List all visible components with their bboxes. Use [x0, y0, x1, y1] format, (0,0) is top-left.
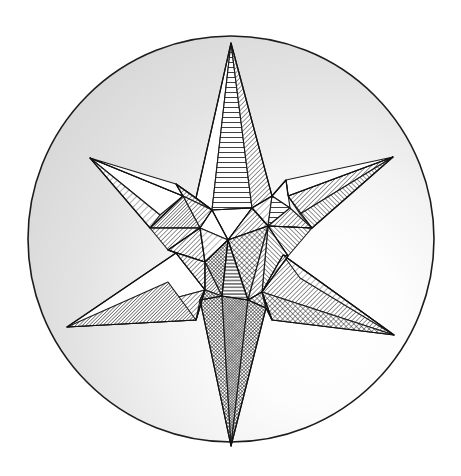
stellated-polyhedron-engraving	[0, 0, 461, 476]
engraving-canvas: Stellated polyhedron inscribed in a sphe…	[0, 0, 461, 476]
